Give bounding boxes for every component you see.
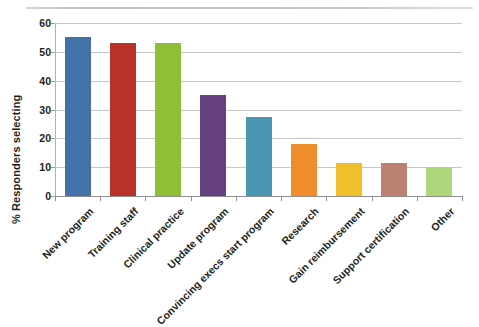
- x-axis-label-6: Gain reimbursement: [286, 205, 367, 286]
- bar-0: [65, 37, 91, 196]
- bar-4: [246, 117, 272, 196]
- x-tick-mark-end: [462, 196, 463, 201]
- gridline-60: [55, 23, 462, 24]
- plot-area: [55, 23, 462, 196]
- x-axis-label-8: Other: [429, 205, 457, 233]
- x-tick-mark-6: [326, 196, 327, 201]
- x-tick-mark-0: [55, 196, 56, 201]
- x-tick-mark-1: [100, 196, 101, 201]
- y-tick-label-30: 30: [5, 104, 51, 115]
- x-tick-mark-7: [372, 196, 373, 201]
- y-tick-label-50: 50: [5, 47, 51, 58]
- x-axis-label-5: Research: [279, 205, 321, 247]
- bar-chart: % Responders selecting 0102030405060 New…: [0, 0, 479, 327]
- bar-6: [336, 163, 362, 196]
- x-axis-label-7: Support certification: [331, 205, 412, 286]
- bar-3: [200, 95, 226, 196]
- bar-5: [291, 144, 317, 196]
- bar-2: [155, 43, 181, 196]
- y-tick-label-0: 0: [5, 191, 51, 202]
- y-tick-label-10: 10: [5, 162, 51, 173]
- x-tick-mark-3: [191, 196, 192, 201]
- bar-7: [381, 163, 407, 196]
- x-tick-mark-2: [145, 196, 146, 201]
- x-tick-mark-8: [417, 196, 418, 201]
- x-tick-mark-4: [236, 196, 237, 201]
- x-tick-mark-5: [281, 196, 282, 201]
- y-axis-ticks: 0102030405060: [0, 23, 51, 197]
- y-tick-label-40: 40: [5, 75, 51, 86]
- x-axis-line: [55, 196, 462, 197]
- bar-8: [426, 167, 452, 196]
- y-tick-label-60: 60: [5, 18, 51, 29]
- bar-1: [110, 43, 136, 196]
- y-tick-label-20: 20: [5, 133, 51, 144]
